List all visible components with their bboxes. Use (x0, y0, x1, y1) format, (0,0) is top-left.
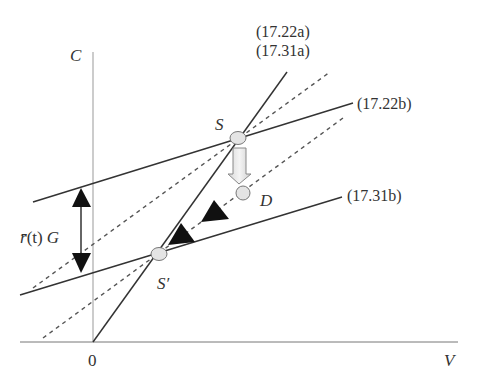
point-D-label: D (259, 191, 273, 210)
gap-label-t: (t) (27, 228, 43, 247)
upper-line-17-22b (33, 103, 353, 202)
point-S-prime-label: S′ (157, 274, 170, 293)
gap-arrow-down-icon (72, 253, 91, 273)
point-S (230, 132, 246, 145)
point-D (236, 186, 250, 200)
diagram-svg: C V 0 (17.22a) (17.31a) (17.22b) (17.31b… (0, 0, 479, 374)
point-S-prime (151, 248, 167, 261)
movement-arrow-2-icon (168, 223, 195, 245)
x-axis-label: V (444, 351, 457, 370)
lower-line-17-31b (20, 197, 342, 295)
steep-line-17-22a-17-31a (93, 72, 287, 342)
point-S-label: S (215, 115, 224, 134)
y-axis-label: C (70, 46, 82, 65)
origin-label: 0 (88, 351, 97, 370)
movement-arrow-1-icon (201, 200, 229, 222)
gap-arrow-up-icon (72, 188, 91, 207)
upper-line-label: (17.22b) (357, 95, 412, 113)
lower-line-label: (17.31b) (347, 187, 402, 205)
steep-line-label-1: (17.22a) (256, 23, 310, 41)
gap-label: r̄(t)G (20, 228, 59, 247)
diagram-canvas: C V 0 (17.22a) (17.31a) (17.22b) (17.31b… (0, 0, 479, 374)
shift-arrow-icon (228, 148, 251, 184)
gap-label-G: G (47, 228, 59, 247)
steep-line-label-2: (17.31a) (256, 42, 310, 60)
dashed-line-lower (43, 118, 343, 338)
